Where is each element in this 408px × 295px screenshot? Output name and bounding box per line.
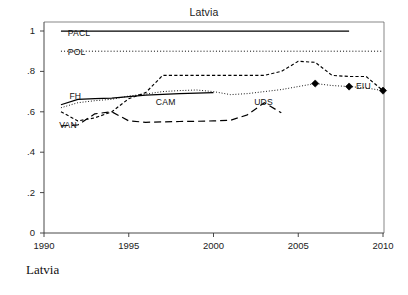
x-tick-2010: 2010 <box>363 240 403 251</box>
series-markers <box>312 80 387 94</box>
chart-figure: Latvia 0.2.4.6.81 19901995200020052010 P… <box>0 0 408 295</box>
x-tick-1990: 1990 <box>24 240 64 251</box>
series-label-eiu: EIU <box>356 81 371 91</box>
series-label-fh: FH <box>69 91 81 101</box>
y-tick-p2: .2 <box>13 187 35 198</box>
y-tick-p8: .8 <box>13 65 35 76</box>
y-tick-p4: .4 <box>13 146 35 157</box>
series-lines <box>61 31 383 126</box>
x-tick-2005: 2005 <box>278 240 318 251</box>
y-tick-0: 0 <box>13 227 35 238</box>
series-label-uds: UDS <box>254 97 273 107</box>
axis-ticks <box>40 31 383 237</box>
y-tick-p6: .6 <box>13 106 35 117</box>
series-label-pol: POL <box>68 47 86 57</box>
x-tick-1995: 1995 <box>109 240 149 251</box>
x-tick-2000: 2000 <box>194 240 234 251</box>
axes-frame <box>44 22 384 233</box>
series-label-cam: CAM <box>156 97 176 107</box>
y-tick-1: 1 <box>13 25 35 36</box>
series-label-van: VAN <box>59 120 77 130</box>
series-label-pacl: PACL <box>68 28 91 38</box>
figure-caption: Latvia <box>26 262 59 278</box>
